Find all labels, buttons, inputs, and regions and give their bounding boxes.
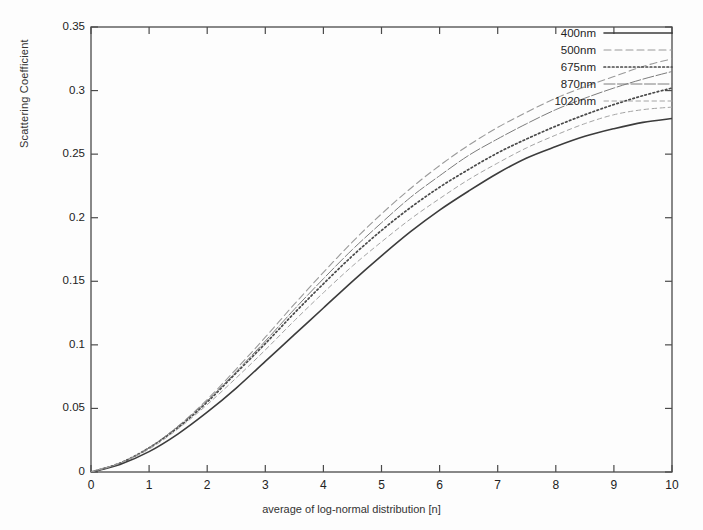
- y-axis-label: Scattering Coefficient: [18, 0, 30, 148]
- x-axis-label: average of log-normal distribution [n]: [0, 503, 703, 515]
- x-tick-10: 10: [657, 478, 687, 492]
- legend-label-870nm: 870nm: [534, 78, 602, 90]
- series-line-870nm: [91, 72, 672, 473]
- series-line-400nm: [91, 119, 672, 472]
- x-tick-0: 0: [76, 478, 106, 492]
- y-tick-0.15: 0.15: [39, 274, 85, 286]
- chart-legend: 400nm500nm675nm870nm1020nm: [534, 24, 676, 109]
- series-line-500nm: [91, 59, 672, 472]
- series-line-1020nm: [91, 107, 672, 472]
- legend-entry-500nm: 500nm: [534, 41, 676, 58]
- legend-label-1020nm: 1020nm: [534, 95, 602, 107]
- x-tick-3: 3: [250, 478, 280, 492]
- legend-sample-675nm: [602, 61, 676, 73]
- legend-sample-1020nm: [602, 95, 676, 107]
- y-tick-0.35: 0.35: [39, 20, 85, 32]
- y-tick-0: 0: [39, 465, 85, 477]
- legend-sample-500nm: [602, 44, 676, 56]
- x-tick-5: 5: [367, 478, 397, 492]
- x-tick-4: 4: [308, 478, 338, 492]
- scattering-coefficient-chart: Scattering Coefficient average of log-no…: [0, 0, 703, 530]
- y-tick-0.1: 0.1: [39, 338, 85, 350]
- legend-sample-870nm: [602, 78, 676, 90]
- x-tick-2: 2: [192, 478, 222, 492]
- y-tick-0.25: 0.25: [39, 147, 85, 159]
- legend-entry-400nm: 400nm: [534, 24, 676, 41]
- y-tick-0.05: 0.05: [39, 401, 85, 413]
- legend-entry-675nm: 675nm: [534, 58, 676, 75]
- x-tick-8: 8: [541, 478, 571, 492]
- x-tick-7: 7: [483, 478, 513, 492]
- legend-label-675nm: 675nm: [534, 61, 602, 73]
- legend-label-500nm: 500nm: [534, 44, 602, 56]
- legend-entry-870nm: 870nm: [534, 75, 676, 92]
- legend-label-400nm: 400nm: [534, 27, 602, 39]
- x-tick-9: 9: [599, 478, 629, 492]
- legend-sample-400nm: [602, 27, 676, 39]
- x-tick-1: 1: [134, 478, 164, 492]
- series-line-675nm: [91, 88, 672, 472]
- x-tick-6: 6: [425, 478, 455, 492]
- y-tick-0.2: 0.2: [39, 211, 85, 223]
- legend-entry-1020nm: 1020nm: [534, 92, 676, 109]
- y-tick-0.3: 0.3: [39, 84, 85, 96]
